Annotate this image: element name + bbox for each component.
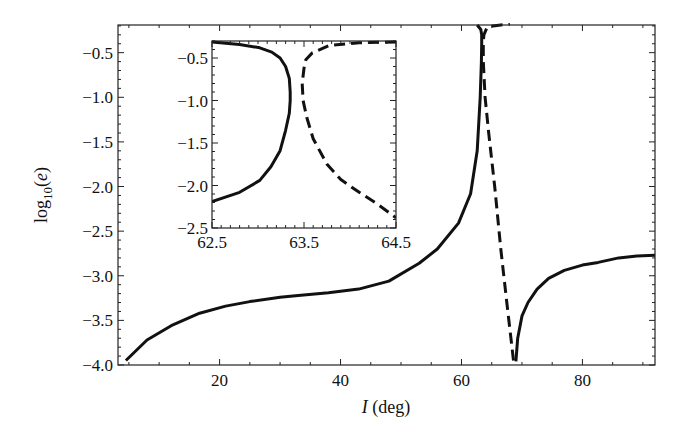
x-axis-title: I (deg) xyxy=(361,397,410,418)
main-y-tick-label: −2.0 xyxy=(82,178,113,197)
main-y-tick-label: −2.5 xyxy=(82,222,113,241)
main-y-tick-label: −4.0 xyxy=(82,356,113,375)
inset-x-tick-label: 64.5 xyxy=(381,233,411,252)
inset-x-tick-label: 63.5 xyxy=(289,233,319,252)
y-axis-title: log10(e) xyxy=(31,167,55,223)
inset-y-tick-label: −1.5 xyxy=(177,134,208,153)
main-y-tick-label: −0.5 xyxy=(82,44,113,63)
inset-y-tick-label: −2.5 xyxy=(177,219,208,238)
x-axis-title-unit: (deg) xyxy=(368,397,410,418)
main-y-tick-label: −1.5 xyxy=(82,133,113,152)
main-x-tick-label: 60 xyxy=(453,371,470,390)
y-axis-title-arg: (e) xyxy=(31,167,52,187)
y-axis-title-log: log xyxy=(31,200,51,223)
inset-y-tick-label: −0.5 xyxy=(177,49,208,68)
inset-y-tick-label: −1.0 xyxy=(177,92,208,111)
inset-plot: 62.563.564.5−0.5−1.0−1.5−2.0−2.5 xyxy=(177,41,411,252)
main-y-tick-label: −1.0 xyxy=(82,88,113,107)
inset-y-tick-label: −2.0 xyxy=(177,177,208,196)
main-x-tick-label: 40 xyxy=(332,371,349,390)
main-x-tick-label: 80 xyxy=(574,371,591,390)
chart-figure: 20406080−0.5−1.0−1.5−2.0−2.5−3.0−3.5−4.0… xyxy=(0,0,686,436)
main-y-tick-label: −3.0 xyxy=(82,267,113,286)
chart-canvas: 20406080−0.5−1.0−1.5−2.0−2.5−3.0−3.5−4.0… xyxy=(0,0,686,436)
y-axis-title-sub: 10 xyxy=(40,187,55,200)
main-x-tick-label: 20 xyxy=(211,371,228,390)
main-y-tick-label: −3.5 xyxy=(82,311,113,330)
